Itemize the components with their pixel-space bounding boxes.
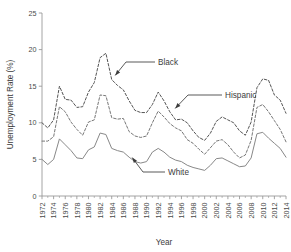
x-tick-label: 1982 <box>96 203 105 219</box>
series-label-black: Black <box>158 58 179 67</box>
y-tick-label: 0 <box>33 192 37 201</box>
x-tick-label: 2008 <box>247 203 256 219</box>
series-line-white <box>42 132 286 170</box>
x-tick-label: 1996 <box>177 203 186 219</box>
y-axis-title: Unemployment Rate (%) <box>6 59 15 149</box>
x-tick-label: 2014 <box>282 203 291 219</box>
x-tick-label: 2012 <box>270 203 279 219</box>
x-tick-label: 1994 <box>166 203 175 219</box>
x-tick-label: 2000 <box>200 203 209 219</box>
annotation-leader-hispanic <box>175 95 222 108</box>
x-tick-label: 1980 <box>84 203 93 219</box>
x-tick-label: 2004 <box>224 203 233 219</box>
y-tick-label: 25 <box>29 9 37 18</box>
x-tick-label: 1984 <box>108 203 117 219</box>
annotation-leader-black <box>115 62 155 75</box>
x-tick-label: 1998 <box>189 203 198 219</box>
x-tick-label: 1990 <box>142 203 151 219</box>
x-tick-label: 2002 <box>212 203 221 219</box>
x-tick-label: 1978 <box>73 203 82 219</box>
y-tick-label: 20 <box>29 45 37 54</box>
y-tick-label: 5 <box>33 155 37 164</box>
x-axis-title: Year <box>156 238 173 247</box>
x-tick-label: 1976 <box>61 203 70 219</box>
chart-canvas: 0510152025197219741976197819801982198419… <box>0 0 291 252</box>
series-label-white: White <box>168 168 189 177</box>
unemployment-rate-line-chart: 0510152025197219741976197819801982198419… <box>0 0 291 252</box>
y-tick-label: 10 <box>29 118 37 127</box>
y-tick-label: 15 <box>29 82 37 91</box>
x-tick-label: 1974 <box>49 203 58 219</box>
x-tick-label: 1988 <box>131 203 140 219</box>
x-tick-label: 1986 <box>119 203 128 219</box>
x-tick-label: 1992 <box>154 203 163 219</box>
x-tick-label: 2010 <box>259 203 268 219</box>
x-tick-label: 2006 <box>235 203 244 219</box>
x-tick-label: 1972 <box>38 203 47 219</box>
annotation-leader-white <box>132 158 165 172</box>
series-label-hispanic: Hispanic <box>225 91 256 100</box>
